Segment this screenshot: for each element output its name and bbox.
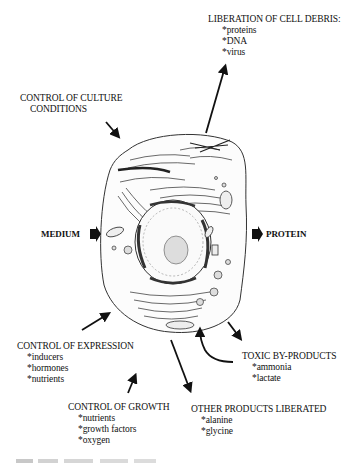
- expression-item: *inducers: [17, 352, 134, 363]
- other-products-title: OTHER PRODUCTS LIBERATED: [191, 404, 326, 415]
- growth-item: *nutrients: [68, 413, 169, 424]
- culture-title-line2: CONDITIONS: [20, 104, 123, 115]
- other-products-item: *alanine: [191, 415, 326, 426]
- growth-item: *oxygen: [68, 435, 169, 446]
- other-products-arrow: [171, 340, 190, 390]
- culture-title-line1: CONTROL OF CULTURE: [20, 93, 123, 104]
- expression-item: *nutrients: [17, 374, 134, 385]
- label-expression: CONTROL OF EXPRESSION *inducers *hormone…: [17, 341, 134, 385]
- toxic-in-arrow: [200, 330, 233, 362]
- toxic-title: TOXIC BY-PRODUCTS: [242, 351, 336, 362]
- label-control-growth: CONTROL OF GROWTH *nutrients *growth fac…: [68, 402, 169, 446]
- cell-debris-item: *virus: [208, 47, 340, 58]
- expression-item: *hormones: [17, 363, 134, 374]
- toxic-out-arrow: [228, 322, 240, 338]
- culture-arrow: [106, 122, 118, 136]
- protein-arrow-icon: [252, 226, 263, 242]
- label-cell-debris: LIBERATION OF CELL DEBRIS: *proteins *DN…: [208, 14, 340, 58]
- growth-item: *growth factors: [68, 424, 169, 435]
- nucleolus: [164, 236, 188, 264]
- cell-debris-item: *DNA: [208, 36, 340, 47]
- expression-title: CONTROL OF EXPRESSION: [17, 341, 134, 352]
- cell-debris-title: LIBERATION OF CELL DEBRIS:: [208, 14, 340, 25]
- expression-arrow: [82, 314, 108, 330]
- toxic-item: *ammonia: [242, 362, 336, 373]
- toxic-item: *lactate: [242, 373, 336, 384]
- label-protein: PROTEIN: [266, 229, 306, 240]
- label-culture-conditions: CONTROL OF CULTURE CONDITIONS: [20, 93, 123, 115]
- cell-debris-item: *proteins: [208, 25, 340, 36]
- medium-arrow-icon: [90, 226, 101, 242]
- label-toxic-byproducts: TOXIC BY-PRODUCTS *ammonia *lactate: [242, 351, 336, 384]
- label-medium: MEDIUM: [41, 229, 80, 240]
- figure-caption-faint: [16, 459, 156, 463]
- growth-title: CONTROL OF GROWTH: [68, 402, 169, 413]
- other-products-item: *glycine: [191, 426, 326, 437]
- label-other-products: OTHER PRODUCTS LIBERATED *alanine *glyci…: [191, 404, 326, 437]
- debris-arrow: [206, 67, 225, 133]
